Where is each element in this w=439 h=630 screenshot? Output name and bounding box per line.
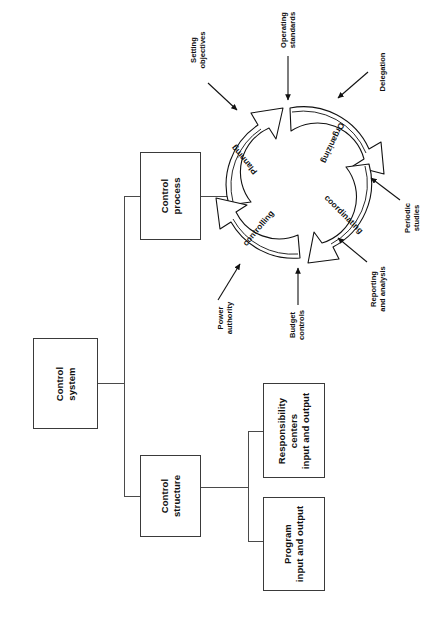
annotation-periodic-studies: Periodic studies (403, 203, 422, 233)
annotation-operating-standards: Operating standards (279, 12, 298, 48)
diagram-canvas: Control system Control process Control s… (0, 0, 439, 630)
arrow-power-authority (218, 264, 240, 300)
annotation-setting-objectives: Setting objectives (189, 31, 208, 68)
annotation-power-authority: Power authority (216, 302, 235, 335)
annotation-reporting-and-analysis: Reporting and analysis (369, 266, 388, 312)
arrow-setting-objectives (208, 83, 237, 110)
arrow-periodic-studies (371, 178, 400, 200)
arrow-delegation (338, 72, 368, 98)
arrow-reporting-and-analysis (338, 238, 367, 262)
annotation-delegation: Delegation (378, 53, 387, 92)
annotation-budget-controls: Budget controls (288, 310, 307, 340)
